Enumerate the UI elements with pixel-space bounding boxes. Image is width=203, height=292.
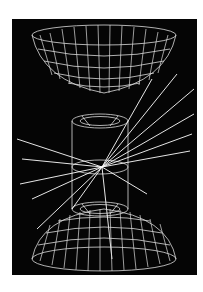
upper-endcap xyxy=(32,25,176,93)
particle-tracks xyxy=(17,74,194,259)
detector-event-image xyxy=(12,19,197,275)
lower-endcap xyxy=(32,209,176,271)
detector-wireframe xyxy=(12,19,197,275)
